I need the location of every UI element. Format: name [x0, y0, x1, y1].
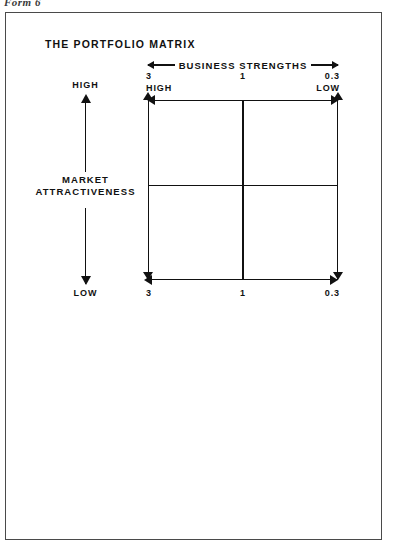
bottom-scale: 3 1 0.3 [148, 288, 338, 302]
market-attractiveness-low-label: LOW [28, 288, 143, 298]
page-root: Form 6 THE PORTFOLIO MATRIX BUSINESS STR… [0, 0, 394, 555]
matrix-quadrants [149, 101, 337, 279]
portfolio-matrix-grid [148, 100, 338, 280]
quadrant-top-left[interactable] [149, 101, 243, 185]
bottom-scale-left-number: 3 [146, 288, 152, 299]
market-attractiveness-line-bottom [85, 208, 87, 284]
market-attractiveness-label-line2: ATTRACTIVENESS [28, 186, 143, 198]
figure-title: THE PORTFOLIO MATRIX [45, 38, 196, 50]
quadrant-bottom-right[interactable] [243, 185, 337, 279]
bottom-scale-middle-number: 1 [240, 288, 246, 299]
bottom-scale-middle: 1 [240, 288, 246, 299]
top-scale-middle-number: 1 [240, 71, 246, 83]
right-arrow-icon [311, 64, 338, 66]
market-attractiveness-down-arrow-icon [81, 276, 91, 285]
quadrant-top-right[interactable] [243, 101, 337, 185]
market-attractiveness-high-label: HIGH [28, 80, 143, 90]
top-scale-middle: 1 [240, 71, 246, 83]
top-scale: 3 HIGH 1 0.3 LOW [148, 71, 338, 95]
portfolio-matrix-figure: THE PORTFOLIO MATRIX BUSINESS STRENGTHS … [0, 0, 394, 320]
market-attractiveness-line-top [85, 102, 87, 172]
market-attractiveness-label: MARKET ATTRACTIVENESS [28, 174, 143, 198]
matrix-left-up-arrow-icon [143, 92, 153, 100]
market-attractiveness-label-line1: MARKET [28, 174, 143, 186]
top-scale-left: 3 HIGH [146, 71, 172, 94]
market-attractiveness-axis: HIGH MARKET ATTRACTIVENESS LOW [28, 80, 143, 300]
top-scale-right: 0.3 LOW [316, 71, 340, 94]
bottom-scale-right-number: 0.3 [325, 288, 340, 299]
top-scale-left-number: 3 [146, 71, 172, 83]
business-strengths-axis: BUSINESS STRENGTHS [148, 58, 338, 72]
top-scale-right-number: 0.3 [316, 71, 340, 83]
bottom-scale-right: 0.3 [325, 288, 340, 299]
quadrant-bottom-left[interactable] [149, 185, 243, 279]
left-arrow-icon [148, 64, 175, 66]
matrix-right-up-arrow-icon [333, 92, 343, 100]
bottom-scale-left: 3 [146, 288, 152, 299]
business-strengths-label: BUSINESS STRENGTHS [175, 60, 312, 71]
